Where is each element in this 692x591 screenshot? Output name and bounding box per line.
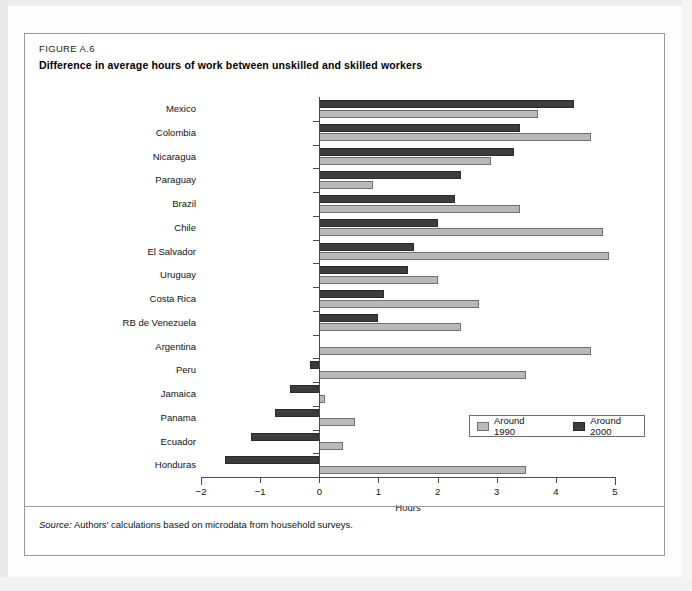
category-label: Argentina (26, 341, 196, 352)
bar-row: El Salvador (201, 240, 615, 265)
legend-item-around-1990[interactable]: Around 1990 (477, 415, 548, 437)
bar-row: Honduras (201, 453, 615, 478)
bar-around-1990[interactable] (319, 276, 437, 284)
bar-around-2000[interactable] (319, 314, 378, 322)
legend-item-around-2000[interactable]: Around 2000 (573, 415, 644, 437)
category-tick (313, 287, 320, 288)
bar-row: Argentina (201, 335, 615, 360)
category-tick (313, 216, 320, 217)
scan-page: FIGURE A.6 Difference in average hours o… (0, 0, 692, 591)
source-text: Authors' calculations based on microdata… (74, 519, 353, 530)
x-axis-tick (378, 477, 379, 483)
bar-around-1990[interactable] (319, 181, 372, 189)
bar-around-1990[interactable] (319, 418, 354, 426)
bar-row: Mexico (201, 97, 615, 122)
bar-around-1990[interactable] (319, 371, 526, 379)
bar-around-2000[interactable] (319, 243, 414, 251)
x-axis-tick-label: −2 (196, 486, 207, 497)
bar-around-2000[interactable] (310, 361, 319, 369)
x-axis-tick (615, 477, 616, 485)
category-tick (313, 382, 320, 383)
source-keyword: Source: (39, 519, 72, 530)
x-axis-line (201, 477, 615, 478)
x-axis-tick (438, 477, 439, 483)
legend-swatch-light-icon (477, 422, 489, 431)
x-axis-tick (497, 477, 498, 483)
category-tick (313, 240, 320, 241)
scan-edge-right (682, 0, 692, 591)
scan-edge-bottom (0, 577, 692, 591)
chart-legend: Around 1990 Around 2000 (469, 415, 645, 437)
bar-around-2000[interactable] (275, 409, 319, 417)
category-tick (313, 168, 320, 169)
figure-title: Difference in average hours of work betw… (39, 59, 422, 71)
x-axis-tick (556, 477, 557, 483)
category-label: Mexico (26, 103, 196, 114)
bar-around-1990[interactable] (319, 347, 591, 355)
x-axis-tick-label: 2 (435, 486, 440, 497)
bar-around-2000[interactable] (319, 148, 514, 156)
category-label: Jamaica (26, 388, 196, 399)
bar-row: Costa Rica (201, 287, 615, 312)
scan-edge-top (0, 0, 692, 6)
bar-around-2000[interactable] (319, 290, 384, 298)
bar-around-2000[interactable] (319, 100, 573, 108)
category-tick (313, 145, 320, 146)
bar-around-2000[interactable] (251, 433, 319, 441)
x-axis-tick (319, 477, 320, 483)
bar-row: RB de Venezuela (201, 311, 615, 336)
category-tick (313, 358, 320, 359)
bar-around-2000[interactable] (319, 266, 408, 274)
x-axis-title: Hours (201, 502, 615, 513)
category-label: RB de Venezuela (26, 317, 196, 328)
category-tick (313, 430, 320, 431)
x-axis-tick (260, 477, 261, 483)
bar-around-1990[interactable] (319, 300, 479, 308)
bar-around-2000[interactable] (319, 171, 461, 179)
bar-around-1990[interactable] (319, 110, 538, 118)
figure-label: FIGURE A.6 (39, 43, 95, 54)
category-tick (313, 453, 320, 454)
category-label: Brazil (26, 198, 196, 209)
bar-around-1990[interactable] (319, 133, 591, 141)
category-label: Paraguay (26, 174, 196, 185)
bar-around-1990[interactable] (319, 466, 526, 474)
bar-row: Colombia (201, 121, 615, 146)
figure-frame: FIGURE A.6 Difference in average hours o… (24, 33, 665, 556)
category-label: Nicaragua (26, 151, 196, 162)
bar-row: Paraguay (201, 168, 615, 193)
bar-around-2000[interactable] (319, 195, 455, 203)
source-note: Source: Authors' calculations based on m… (39, 519, 353, 530)
bar-around-2000[interactable] (319, 124, 520, 132)
category-tick (313, 263, 320, 264)
bar-row: Nicaragua (201, 145, 615, 170)
bar-row: Chile (201, 216, 615, 241)
bar-around-1990[interactable] (319, 252, 609, 260)
legend-label-around-1990: Around 1990 (494, 415, 548, 437)
x-axis-tick-label: −1 (255, 486, 266, 497)
scan-edge-left (0, 0, 8, 591)
x-axis-tick-label: 1 (376, 486, 381, 497)
bar-around-2000[interactable] (225, 456, 320, 464)
bar-around-1990[interactable] (319, 157, 491, 165)
category-label: Costa Rica (26, 293, 196, 304)
bar-around-1990[interactable] (319, 228, 603, 236)
category-tick (313, 335, 320, 336)
bar-around-2000[interactable] (290, 385, 320, 393)
category-label: Uruguay (26, 269, 196, 280)
bar-around-1990[interactable] (319, 323, 461, 331)
category-label: Colombia (26, 127, 196, 138)
category-label: Panama (26, 412, 196, 423)
bar-around-1990[interactable] (319, 205, 520, 213)
x-axis-tick-label: 0 (317, 486, 322, 497)
bar-row: Jamaica (201, 382, 615, 407)
bar-around-2000[interactable] (319, 219, 437, 227)
bar-around-1990[interactable] (319, 442, 343, 450)
x-axis-tick (201, 477, 202, 485)
x-axis-tick-label: 5 (612, 486, 617, 497)
category-tick (313, 311, 320, 312)
category-label: Honduras (26, 459, 196, 470)
legend-swatch-dark-icon (573, 422, 585, 431)
category-label: Peru (26, 364, 196, 375)
category-label: Ecuador (26, 436, 196, 447)
